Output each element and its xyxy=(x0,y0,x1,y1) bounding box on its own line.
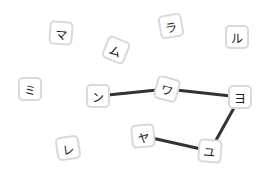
tile-yo[interactable]: ヨ xyxy=(228,85,252,109)
tile-wa[interactable]: ワ xyxy=(152,74,181,103)
tile-char: ミ xyxy=(24,81,36,98)
tile-ru[interactable]: ル xyxy=(225,25,249,49)
tile-char: ム xyxy=(107,40,124,60)
tile-char: ヤ xyxy=(136,127,149,145)
game-board: マ ム ラ ル ミ ン ワ ヨ レ ヤ ユ xyxy=(0,0,268,174)
tile-ma[interactable]: マ xyxy=(48,20,74,46)
tile-char: レ xyxy=(61,139,75,158)
tile-mu[interactable]: ム xyxy=(100,34,131,65)
tile-char: ワ xyxy=(159,79,175,99)
tile-re[interactable]: レ xyxy=(54,134,81,161)
tile-n[interactable]: ン xyxy=(86,84,110,108)
tile-yu[interactable]: ユ xyxy=(197,138,223,164)
tile-ya[interactable]: ヤ xyxy=(130,123,156,149)
tile-char: ヨ xyxy=(234,89,246,106)
tile-char: ユ xyxy=(203,142,216,160)
tile-char: マ xyxy=(54,24,67,42)
tile-char: ル xyxy=(231,29,243,46)
tile-char: ラ xyxy=(164,17,179,36)
tile-ra[interactable]: ラ xyxy=(157,12,185,40)
tile-char: ン xyxy=(92,88,104,105)
tile-mi[interactable]: ミ xyxy=(18,77,42,101)
